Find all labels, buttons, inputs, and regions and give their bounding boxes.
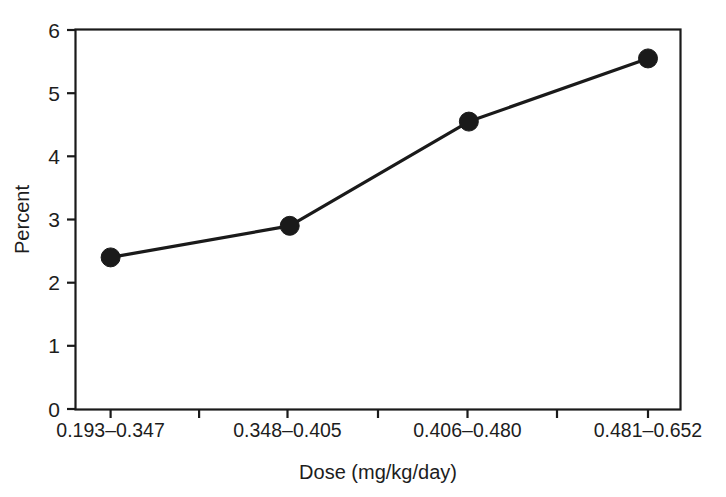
y-tick-label-2: 2 [48,271,60,294]
data-point-3 [639,49,658,68]
y-axis-title: Percent [11,185,33,254]
x-tick-label-1: 0.348–0.405 [233,419,342,441]
y-tick-label-3: 3 [48,208,60,231]
series-markers [101,49,657,267]
y-tick-label-5: 5 [48,82,60,105]
chart-figure: 0 1 2 3 4 5 6 0.193–0.347 0.348–0.405 0.… [0,0,726,497]
y-tick-label-0: 0 [48,398,60,421]
plot-frame [76,30,681,410]
x-tick-label-2: 0.406–0.480 [413,419,522,441]
y-tick-label-6: 6 [48,19,60,42]
data-point-0 [101,248,120,267]
x-axis-tick-labels: 0.193–0.347 0.348–0.405 0.406–0.480 0.48… [56,419,702,441]
x-axis-ticks [111,410,648,419]
x-tick-label-0: 0.193–0.347 [56,419,164,441]
series-line-percent [111,58,648,257]
y-tick-label-1: 1 [48,334,60,357]
y-axis-tick-labels: 0 1 2 3 4 5 6 [48,19,60,421]
x-axis-title: Dose (mg/kg/day) [299,461,457,483]
data-point-2 [459,112,478,131]
x-tick-label-3: 0.481–0.652 [594,419,702,441]
y-axis-ticks [67,30,76,409]
line-chart: 0 1 2 3 4 5 6 0.193–0.347 0.348–0.405 0.… [0,0,726,497]
data-point-1 [280,216,299,235]
y-tick-label-4: 4 [48,145,60,168]
